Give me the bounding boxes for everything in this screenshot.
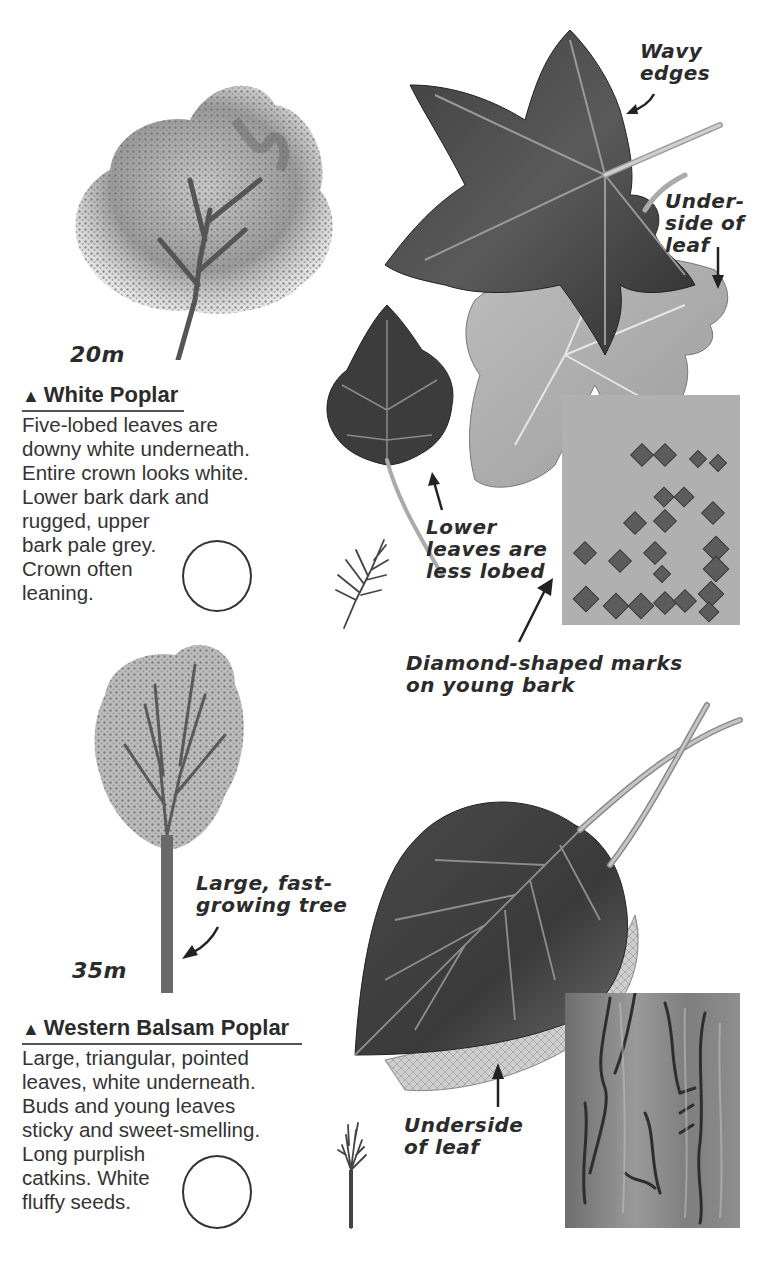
description-line: sticky and sweet-smelling.	[22, 1118, 260, 1142]
description-line: Lower bark dark and	[22, 485, 250, 509]
lower-leaves-annotation: Lower leaves are less lobed	[426, 516, 547, 582]
white-poplar-title-text: White Poplar	[44, 382, 178, 407]
arrow-icon	[622, 92, 658, 118]
white-poplar-height: 20m	[70, 342, 125, 367]
description-line: Five-lobed leaves are	[22, 413, 250, 437]
western-balsam-poplar-title: ▲Western Balsam Poplar	[22, 1015, 302, 1045]
arrow-icon	[710, 245, 726, 291]
white-poplar-tree-illustration	[60, 60, 350, 360]
winter-silhouette-icon	[334, 1115, 370, 1230]
western-balsam-poplar-tree-illustration	[85, 625, 255, 995]
description-line: Buds and young leaves	[22, 1094, 260, 1118]
arrow-icon	[515, 578, 555, 644]
description-line: leaves, white underneath.	[22, 1070, 260, 1094]
white-poplar-title: ▲White Poplar	[22, 382, 184, 412]
white-poplar-spotted-checkbox[interactable]	[182, 540, 252, 612]
triangle-marker-icon: ▲	[22, 1019, 40, 1039]
winter-silhouette-icon	[326, 530, 396, 630]
triangle-marker-icon: ▲	[22, 386, 40, 406]
description-line: downy white underneath.	[22, 437, 250, 461]
white-poplar-bark-illustration	[562, 395, 740, 625]
western-balsam-poplar-spotted-checkbox[interactable]	[182, 1155, 252, 1229]
arrow-icon	[428, 472, 448, 512]
western-balsam-poplar-height: 35m	[72, 958, 127, 983]
description-line: Large, triangular, pointed	[22, 1046, 260, 1070]
description-line: rugged, upper	[22, 509, 250, 533]
diamond-marks-annotation: Diamond-shaped marks on young bark	[406, 652, 683, 696]
western-balsam-poplar-bark-illustration	[565, 993, 740, 1228]
description-line: Entire crown looks white.	[22, 461, 250, 485]
underside-of-leaf-annotation: Underside of leaf	[404, 1114, 523, 1158]
arrow-icon	[180, 925, 222, 961]
western-balsam-poplar-title-text: Western Balsam Poplar	[44, 1015, 289, 1040]
underside-leaf-annotation: Under- side of leaf	[665, 190, 745, 256]
wavy-edges-annotation: Wavy edges	[640, 40, 710, 84]
large-fast-growing-annotation: Large, fast- growing tree	[196, 872, 347, 916]
arrow-icon	[490, 1063, 506, 1109]
